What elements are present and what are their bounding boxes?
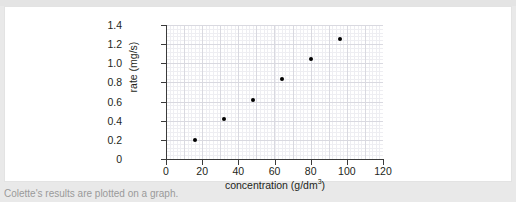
y-tick [161, 63, 166, 64]
y-axis-title: rate (mg/s) [127, 27, 139, 107]
y-tick-label: 0.4 [82, 116, 122, 127]
y-tick [161, 44, 166, 45]
y-tick-label: 0 [82, 154, 122, 165]
y-tick-label: 1.2 [82, 39, 122, 50]
y-tick-label: 0.6 [82, 97, 122, 108]
y-tick [161, 25, 166, 26]
x-tick-label: 120 [363, 166, 403, 177]
x-tick-label: 80 [291, 166, 331, 177]
x-tick-label: 0 [146, 166, 186, 177]
y-axis-line [166, 25, 167, 160]
y-tick [161, 121, 166, 122]
data-point [251, 98, 255, 102]
data-point [222, 117, 226, 121]
y-tick-label: 0.2 [82, 135, 122, 146]
y-tick-label: 1.0 [82, 58, 122, 69]
y-tick [161, 102, 166, 103]
x-tick-label: 100 [327, 166, 367, 177]
figure-caption: Colette's results are plotted on a graph… [4, 188, 512, 202]
y-tick [161, 82, 166, 83]
y-tick-label: 1.4 [82, 20, 122, 31]
data-point [280, 77, 284, 81]
y-tick [161, 140, 166, 141]
figure-card: 00.20.40.60.81.01.21.4 020406080100120 r… [4, 6, 512, 182]
x-tick-label: 60 [255, 166, 295, 177]
plot-area [166, 25, 383, 159]
x-tick-label: 20 [182, 166, 222, 177]
scatter-chart: 00.20.40.60.81.01.21.4 020406080100120 r… [123, 13, 403, 183]
x-tick-label: 40 [218, 166, 258, 177]
y-tick-label: 0.8 [82, 77, 122, 88]
data-point [338, 37, 342, 41]
data-point [193, 138, 197, 142]
